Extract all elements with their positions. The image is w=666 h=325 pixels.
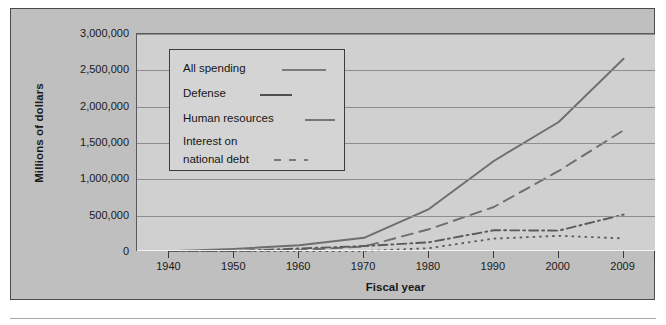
figure-container: Millions of dollars 3,000,000 2,500,000 … (0, 0, 666, 325)
gridline (137, 34, 655, 35)
legend-label-interest-line2: national debt (183, 153, 249, 165)
x-tick-label: 1950 (221, 260, 245, 272)
bottom-divider (10, 318, 656, 319)
y-axis-title: Millions of dollars (33, 68, 45, 198)
legend-sample-defense-icon (258, 90, 298, 100)
x-tick-mark (623, 251, 624, 258)
gridline (137, 216, 655, 217)
y-tick-label: 2,500,000 (51, 63, 129, 75)
x-tick-label: 1960 (286, 260, 310, 272)
x-tick-mark (233, 251, 234, 258)
legend-label-all-spending: All spending (183, 62, 246, 74)
x-tick-label: 1990 (481, 260, 505, 272)
y-tick-label: 1,000,000 (51, 172, 129, 184)
legend-sample-interest-icon (272, 155, 316, 165)
y-tick-label: 1,500,000 (51, 136, 129, 148)
series-line (169, 215, 623, 252)
x-tick-mark (298, 251, 299, 258)
x-tick-label: 2000 (545, 260, 569, 272)
x-tick-mark (493, 251, 494, 258)
x-tick-mark (168, 251, 169, 258)
x-tick-label: 1980 (416, 260, 440, 272)
legend-sample-all-spending-icon (280, 65, 328, 75)
legend-label-defense: Defense (183, 87, 226, 99)
x-axis-title: Fiscal year (136, 281, 655, 293)
x-tick-label: 1940 (156, 260, 180, 272)
y-tick-label: 0 (51, 245, 129, 257)
legend-label-human-resources: Human resources (183, 112, 274, 124)
y-tick-label: 3,000,000 (51, 27, 129, 39)
y-tick-label: 500,000 (51, 209, 129, 221)
x-tick-label: 2009 (610, 260, 634, 272)
y-tick-label: 2,000,000 (51, 100, 129, 112)
gridline (137, 179, 655, 180)
x-tick-mark (363, 251, 364, 258)
x-tick-mark (428, 251, 429, 258)
legend-sample-human-resources-icon (303, 115, 343, 125)
chart-panel: Millions of dollars 3,000,000 2,500,000 … (10, 8, 655, 300)
x-tick-label: 1970 (351, 260, 375, 272)
y-axis-tick-labels: 3,000,000 2,500,000 2,000,000 1,500,000 … (51, 9, 129, 301)
legend-label-interest-line1: Interest on (183, 135, 237, 147)
chart-legend: All spending Defense Human resources Int… (169, 49, 345, 171)
x-tick-mark (654, 251, 655, 258)
x-tick-mark (558, 251, 559, 258)
